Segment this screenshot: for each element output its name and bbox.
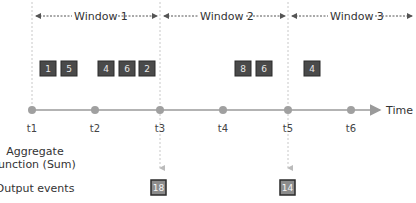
svg-text:5: 5 [66,64,72,74]
svg-text:4: 4 [103,64,109,74]
tumbling-window-diagram: Window 1 Window 2 Window 3 1 5 4 6 2 8 6… [0,0,416,203]
aggregate-label-line2: function (Sum) [0,158,76,171]
output-event-box: 14 [280,180,295,195]
tick-label: t2 [90,123,100,134]
event-box: 8 [235,61,251,76]
svg-text:1: 1 [45,64,51,74]
tick-label: t1 [27,123,37,134]
svg-text:6: 6 [124,64,130,74]
window-3-label: Window 3 [330,10,384,23]
event-box: 6 [119,61,135,76]
tick-label: t3 [155,123,165,134]
svg-text:6: 6 [261,64,267,74]
tick-label: t5 [283,123,293,134]
event-box: 2 [139,61,155,76]
time-point [284,106,292,114]
event-box: 5 [61,61,77,76]
time-axis-label: Time [385,104,413,117]
window-2-label: Window 2 [200,10,254,23]
time-point [91,106,99,114]
event-box: 6 [256,61,272,76]
time-point [156,106,164,114]
tick-label: t4 [218,123,228,134]
time-point [28,106,36,114]
time-point [219,106,227,114]
svg-text:4: 4 [309,64,315,74]
aggregate-label-line1: Aggregate [6,145,64,158]
event-box: 4 [304,61,320,76]
event-box: 1 [40,61,56,76]
svg-text:8: 8 [240,64,246,74]
svg-text:18: 18 [153,183,165,193]
event-box: 4 [98,61,114,76]
output-events-label: Output events [0,182,75,195]
tick-label: t6 [346,123,356,134]
svg-text:14: 14 [282,183,294,193]
window-1-label: Window 1 [74,10,128,23]
time-point [347,106,355,114]
svg-text:2: 2 [144,64,150,74]
output-event-box: 18 [151,180,166,195]
